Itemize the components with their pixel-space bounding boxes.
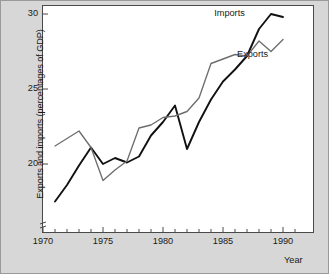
series-label-exports: Exports: [237, 49, 268, 59]
y-tick-label: 30: [16, 8, 38, 18]
plot-area: [42, 5, 314, 233]
y-tick-label: 20: [16, 158, 38, 168]
x-tick-label: 1980: [143, 236, 183, 246]
x-axis-title: Year: [284, 255, 303, 265]
x-tick-label: 1990: [263, 236, 303, 246]
y-tick-label: 25: [16, 83, 38, 93]
series-label-imports: Imports: [214, 8, 245, 18]
x-tick-label: 1975: [83, 236, 123, 246]
x-tick-label: 1970: [23, 236, 63, 246]
chart-screenshot: Exports and imports (percentages of GDP)…: [0, 0, 329, 274]
y-axis-title: Exports and imports (percentages of GDP): [35, 9, 45, 219]
x-tick-label: 1985: [203, 236, 243, 246]
